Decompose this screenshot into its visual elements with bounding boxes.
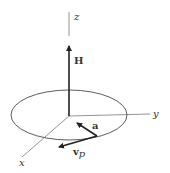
diagram: z y x H a vp — [0, 0, 170, 173]
vp-vector-label: vp — [72, 146, 86, 159]
a-vector-label: a — [92, 120, 99, 131]
x-axis-label: x — [19, 157, 25, 168]
z-axis-label: z — [73, 11, 80, 22]
h-vector-label: H — [74, 55, 83, 66]
y-axis — [69, 114, 150, 116]
x-axis — [22, 116, 69, 157]
y-axis-label: y — [152, 108, 159, 119]
